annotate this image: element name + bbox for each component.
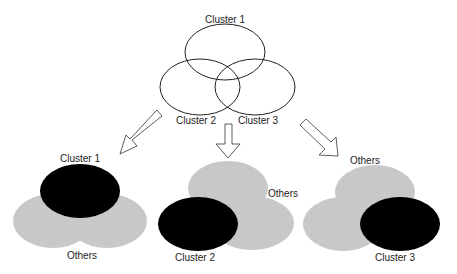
venn-diagram (160, 24, 295, 115)
highlight-cluster3 (360, 197, 440, 251)
venn-label-cluster2: Cluster 2 (176, 115, 216, 126)
cluster-diagram: Cluster 1 Cluster 2 Cluster 3 Cluster 1 … (0, 0, 457, 274)
panel-cluster2 (158, 161, 294, 251)
highlight-cluster2 (158, 197, 238, 251)
arrow-right-icon (300, 119, 338, 156)
arrow-down-icon (216, 124, 240, 158)
venn-label-cluster1: Cluster 1 (205, 14, 245, 25)
panel-cluster3 (303, 165, 440, 251)
panel-cluster1 (13, 164, 147, 248)
panel1-others-label: Others (67, 250, 97, 261)
panel3-others-label: Others (350, 155, 380, 166)
panel3-highlight-label: Cluster 3 (375, 252, 415, 263)
panel2-others-label: Others (268, 188, 298, 199)
venn-cluster1 (185, 24, 265, 80)
panel2-highlight-label: Cluster 2 (175, 252, 215, 263)
panel1-highlight-label: Cluster 1 (60, 153, 100, 164)
venn-label-cluster3: Cluster 3 (238, 115, 278, 126)
venn-cluster2 (160, 59, 240, 115)
venn-cluster3 (215, 59, 295, 115)
highlight-cluster1 (40, 164, 120, 218)
arrow-left-icon (120, 110, 162, 154)
